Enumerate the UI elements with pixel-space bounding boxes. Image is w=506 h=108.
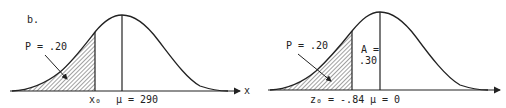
left-normal-curve: [10, 15, 240, 91]
right-mu-label: μ = 0: [370, 95, 400, 105]
panel-label: b.: [27, 15, 39, 25]
left-p-label: P = .20: [25, 42, 67, 52]
left-curve: [12, 15, 228, 91]
normal-distribution-diagrams: b. P = .20 x₀ μ = 290 x P = .20 A = .30 …: [0, 0, 506, 108]
left-axis-label: x: [244, 86, 250, 96]
right-p-label: P = .20: [286, 41, 328, 51]
diagram-canvas: [0, 0, 506, 108]
right-normal-curve: [268, 12, 500, 90]
left-x0-label: x₀: [89, 95, 101, 105]
right-a-label-2: .30: [359, 56, 377, 66]
right-z0-label: z₀ = -.84: [310, 95, 364, 105]
right-a-label-1: A =: [361, 45, 379, 55]
left-mu-label: μ = 290: [116, 95, 158, 105]
